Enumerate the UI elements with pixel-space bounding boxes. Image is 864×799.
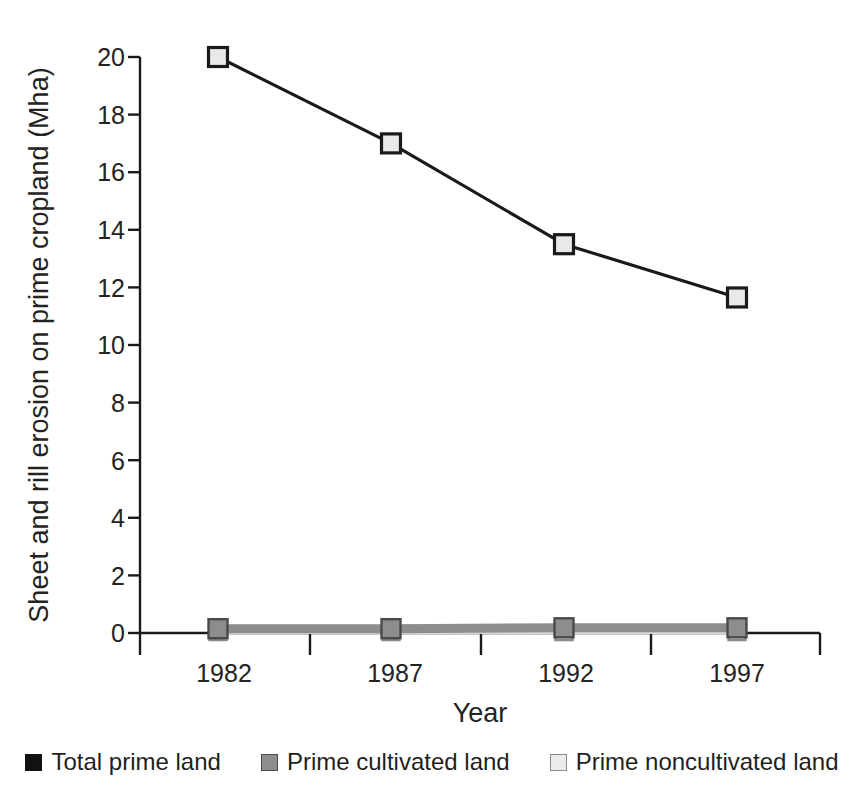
legend-label-prime-cultivated-land: Prime cultivated land xyxy=(287,750,510,774)
legend-item-prime-cultivated-land[interactable]: Prime cultivated land xyxy=(261,750,510,774)
series-layer xyxy=(209,48,747,641)
series-line xyxy=(218,628,737,629)
y-tick-label-6: 6 xyxy=(111,447,125,475)
data-point-marker[interactable] xyxy=(728,288,747,307)
y-tick-label-12: 12 xyxy=(97,274,125,302)
legend-label-prime-noncultivated-land: Prime noncultivated land xyxy=(576,750,839,774)
y-tick-label-4: 4 xyxy=(111,504,125,532)
y-tick-label-14: 14 xyxy=(97,216,125,244)
x-tick-label-1992: 1992 xyxy=(538,659,594,687)
legend-label-total-prime-land: Total prime land xyxy=(51,750,220,774)
line-chart-plot: Sheet and rill erosion on prime cropland… xyxy=(0,0,864,730)
y-tick-label-10: 10 xyxy=(97,331,125,359)
series-line xyxy=(218,57,737,297)
x-axis-title: Year xyxy=(453,698,508,728)
series-prime-cultivated-land xyxy=(209,618,747,638)
y-tick-label-18: 18 xyxy=(97,101,125,129)
chart-legend: Total prime land Prime cultivated land P… xyxy=(0,742,864,782)
y-tick-label-2: 2 xyxy=(111,562,125,590)
y-tick-label-16: 16 xyxy=(97,158,125,186)
x-tick-label-1987: 1987 xyxy=(367,659,423,687)
x-axis-ticks xyxy=(140,633,820,655)
y-tick-label-20: 20 xyxy=(97,43,125,71)
data-point-marker[interactable] xyxy=(209,48,228,67)
y-axis-ticks xyxy=(128,57,140,633)
y-tick-label-8: 8 xyxy=(111,389,125,417)
data-point-marker[interactable] xyxy=(728,618,747,637)
legend-item-prime-noncultivated-land[interactable]: Prime noncultivated land xyxy=(550,750,839,774)
light-square-icon xyxy=(550,754,567,771)
data-point-marker[interactable] xyxy=(555,235,574,254)
data-point-marker[interactable] xyxy=(555,618,574,637)
y-axis-title: Sheet and rill erosion on prime cropland… xyxy=(24,67,54,622)
gray-square-icon xyxy=(261,754,278,771)
x-tick-label-1982: 1982 xyxy=(196,659,252,687)
data-point-marker[interactable] xyxy=(209,619,228,638)
legend-item-total-prime-land[interactable]: Total prime land xyxy=(25,750,220,774)
black-square-icon xyxy=(25,754,42,771)
series-total-prime-land xyxy=(209,48,747,307)
data-point-marker[interactable] xyxy=(382,134,401,153)
x-tick-label-1997: 1997 xyxy=(709,659,765,687)
chart-figure: Sheet and rill erosion on prime cropland… xyxy=(0,0,864,799)
y-tick-label-0: 0 xyxy=(111,619,125,647)
data-point-marker[interactable] xyxy=(382,619,401,638)
